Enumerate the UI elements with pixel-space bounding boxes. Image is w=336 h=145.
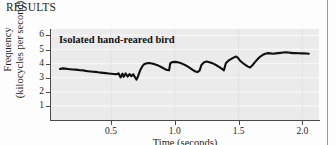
y-tick-label: 2 bbox=[33, 87, 44, 97]
x-tick-mark bbox=[239, 121, 240, 125]
spectrogram-figure: Frequency (kilocycles per second) 123456… bbox=[0, 16, 327, 145]
y-tick-mark bbox=[46, 64, 50, 65]
x-tick-label: 1.5 bbox=[225, 126, 253, 136]
y-tick-mark bbox=[46, 92, 50, 93]
y-axis-title-line2: (kilocycles per second) bbox=[13, 0, 25, 109]
y-tick-label: 1 bbox=[33, 101, 44, 111]
y-tick-label: 4 bbox=[33, 59, 44, 69]
x-tick-mark bbox=[302, 121, 303, 125]
y-tick-label: 5 bbox=[33, 45, 44, 55]
y-tick-label: 6 bbox=[33, 30, 44, 40]
y-tick-mark bbox=[46, 50, 50, 51]
song-trace bbox=[60, 52, 309, 79]
y-tick-mark bbox=[46, 35, 50, 36]
y-axis-title: Frequency (kilocycles per second) bbox=[2, 0, 25, 109]
x-axis-line bbox=[50, 120, 320, 121]
y-tick-mark bbox=[46, 78, 50, 79]
x-tick-label: 1.0 bbox=[161, 126, 189, 136]
x-axis-title: Time (seconds) bbox=[51, 137, 319, 145]
y-tick-label: 3 bbox=[33, 73, 44, 83]
y-axis-title-line1: Frequency bbox=[2, 27, 13, 71]
page-canvas: RESULTS Frequency (kilocycles per second… bbox=[0, 0, 336, 145]
x-tick-label: 2.0 bbox=[288, 126, 316, 136]
x-tick-label: 0.5 bbox=[97, 126, 125, 136]
plot-annotation-label: Isolated hand-reared bird bbox=[59, 34, 175, 45]
x-tick-mark bbox=[175, 121, 176, 125]
y-tick-mark bbox=[46, 106, 50, 107]
page-column-rule bbox=[327, 0, 328, 145]
x-tick-mark bbox=[111, 121, 112, 125]
plot-area: Isolated hand-reared bird bbox=[51, 29, 319, 120]
